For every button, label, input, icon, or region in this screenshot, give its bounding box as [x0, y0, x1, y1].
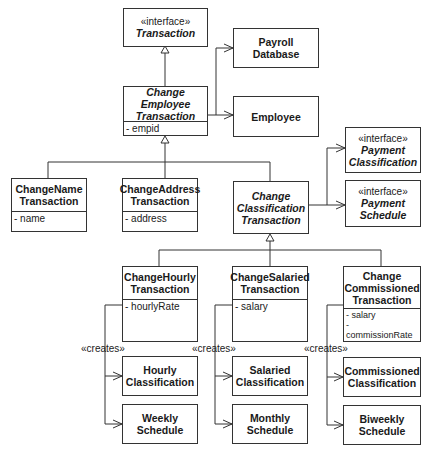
class-title-line: Database — [253, 48, 300, 60]
hollow-triangle-icon — [161, 46, 169, 53]
class-attributes: - address — [123, 211, 197, 231]
class-title-line: Transaction — [353, 294, 412, 306]
class-title-line: Payroll — [258, 36, 293, 48]
class-monthly-schedule[interactable]: Monthly Schedule — [232, 404, 308, 444]
class-title-line: Weekly — [142, 412, 178, 424]
class-biweekly-schedule[interactable]: Biweekly Schedule — [343, 405, 421, 445]
class-payroll-database[interactable]: Payroll Database — [233, 28, 319, 68]
attribute: - address — [125, 213, 195, 224]
class-title-line: Payment — [361, 197, 405, 209]
class-title-line: Monthly — [250, 412, 290, 424]
class-name: Biweekly Schedule — [344, 406, 420, 444]
class-title-line: ChangeSalaried — [230, 271, 309, 283]
class-change-classification-transaction[interactable]: Change Classification Transaction — [233, 181, 309, 234]
class-change-name-transaction[interactable]: ChangeName Transaction - name — [11, 178, 87, 232]
class-change-hourly-transaction[interactable]: ChangeHourly Transaction - hourlyRate — [122, 266, 198, 342]
class-title-line: Employee — [251, 111, 301, 123]
class-employee[interactable]: Employee — [233, 96, 319, 137]
class-transaction[interactable]: «interface» Transaction — [123, 8, 208, 47]
class-change-employee-transaction[interactable]: Change Employee Transaction - empid — [123, 86, 208, 136]
class-title-line: Commissioned — [344, 282, 419, 294]
class-title-line: Schedule — [359, 425, 406, 437]
class-name: Payroll Database — [234, 29, 318, 67]
creates-label: «creates» — [304, 343, 348, 354]
class-title: Transaction — [136, 27, 195, 39]
class-salaried-classification[interactable]: Salaried Classification — [232, 356, 308, 396]
class-title-line: Schedule — [360, 209, 407, 221]
class-title-line: Schedule — [137, 424, 184, 436]
class-name: ChangeHourly Transaction — [123, 267, 197, 299]
class-title-line: ChangeHourly — [124, 271, 196, 283]
class-title-line: Classification — [236, 376, 304, 388]
class-attributes: - hourlyRate — [123, 299, 197, 341]
hollow-triangle-icon — [266, 234, 274, 241]
class-name: Commissioned Classification — [344, 358, 420, 396]
class-name: Change Commissioned Transaction — [344, 267, 420, 308]
creates-label: «creates» — [81, 343, 125, 354]
attribute: - hourlyRate — [125, 301, 195, 312]
class-name: Salaried Classification — [233, 357, 307, 395]
class-change-salaried-transaction[interactable]: ChangeSalaried Transaction - salary — [232, 266, 308, 342]
stereotype-label: «interface» — [358, 186, 407, 197]
class-title-line: Schedule — [247, 424, 294, 436]
attribute: - salary — [235, 301, 305, 312]
class-name: Hourly Classification — [123, 357, 197, 395]
class-name: ChangeName Transaction — [12, 179, 86, 211]
class-name: ChangeSalaried Transaction — [233, 267, 307, 299]
class-commissioned-classification[interactable]: Commissioned Classification — [343, 357, 421, 397]
class-title-line: Employee — [141, 98, 191, 110]
class-name: «interface» Transaction — [124, 9, 207, 46]
class-name: Employee — [234, 97, 318, 136]
class-payment-classification[interactable]: «interface» Payment Classification — [345, 127, 421, 173]
class-attributes: - name — [12, 211, 86, 231]
class-change-commissioned-transaction[interactable]: Change Commissioned Transaction - salary… — [343, 266, 421, 342]
association-line-payment-classification — [308, 148, 345, 205]
class-name: Weekly Schedule — [123, 405, 197, 443]
class-name: ChangeAddress Transaction — [123, 179, 197, 211]
attribute: - empid — [126, 123, 205, 134]
class-title-line: Transaction — [20, 195, 79, 207]
class-name: Monthly Schedule — [233, 405, 307, 443]
class-title-line: ChangeAddress — [120, 183, 201, 195]
class-hourly-classification[interactable]: Hourly Classification — [122, 356, 198, 396]
class-title-line: Payment — [361, 144, 405, 156]
stereotype-label: «interface» — [358, 133, 407, 144]
class-attributes: - empid — [124, 121, 207, 135]
class-name: «interface» Payment Schedule — [346, 181, 420, 226]
attribute: - commissionRate — [346, 320, 418, 340]
class-change-address-transaction[interactable]: ChangeAddress Transaction - address — [122, 178, 198, 232]
attribute: - salary — [346, 310, 418, 320]
hollow-triangle-icon — [161, 136, 169, 143]
class-attributes: - salary — [233, 299, 307, 341]
class-title-line: Change — [363, 270, 402, 282]
class-title-line: Change — [146, 86, 185, 98]
stereotype-label: «interface» — [141, 16, 190, 27]
association-line-payroll-db — [207, 48, 233, 115]
class-title-line: ChangeName — [15, 183, 82, 195]
creates-label: «creates» — [192, 343, 236, 354]
class-title-line: Salaried — [250, 364, 291, 376]
class-title-line: Classification — [126, 376, 194, 388]
class-weekly-schedule[interactable]: Weekly Schedule — [122, 404, 198, 444]
class-name: «interface» Payment Classification — [346, 128, 420, 172]
class-title-line: Change — [252, 190, 291, 202]
class-title-line: Classification — [349, 156, 417, 168]
class-title-line: Transaction — [241, 214, 300, 226]
class-payment-schedule[interactable]: «interface» Payment Schedule — [345, 180, 421, 227]
class-title-line: Commissioned — [344, 365, 419, 377]
class-title-line: Hourly — [143, 364, 176, 376]
class-title-line: Classification — [348, 377, 416, 389]
class-title-line: Classification — [237, 202, 305, 214]
class-name: Change Employee Transaction — [124, 87, 207, 121]
class-title-line: Transaction — [131, 195, 190, 207]
class-attributes: - salary - commissionRate — [344, 308, 420, 341]
class-title-line: Biweekly — [360, 413, 405, 425]
attribute: - name — [14, 213, 84, 224]
class-title-line: Transaction — [131, 283, 190, 295]
class-title-line: Transaction — [241, 283, 300, 295]
class-name: Change Classification Transaction — [234, 182, 308, 233]
